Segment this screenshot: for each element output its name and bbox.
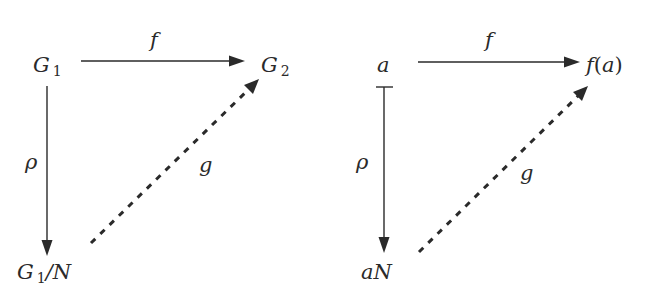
node-g1n-subscript: 1 (37, 270, 46, 286)
node-a: a (377, 55, 390, 76)
node-g1n-base: G (17, 260, 34, 284)
node-g1-base: G (33, 53, 50, 77)
label-f-left: f (150, 30, 158, 51)
arrowhead-g-left-icon (244, 79, 259, 94)
arrowhead-f-left-icon (229, 56, 245, 67)
node-f-of-a: f(a) (586, 55, 623, 76)
node-g1-subscript: 1 (53, 63, 62, 79)
arrowhead-rho-right-icon (379, 237, 390, 253)
arrow-g-left-dashed (91, 89, 249, 243)
arrow-g-right-dashed (419, 96, 578, 252)
commutative-diagrams-canvas (0, 0, 657, 295)
node-f-of-a-paren-close: ) (615, 53, 623, 77)
node-g2: G2 (261, 55, 290, 78)
node-an: aN (361, 262, 392, 283)
node-f-of-a-paren-open: ( (594, 53, 602, 77)
node-f-of-a-arg: a (602, 53, 615, 77)
arrowhead-f-right-icon (564, 57, 580, 68)
node-g2-base: G (261, 53, 278, 77)
label-rho-right: ρ (356, 152, 368, 173)
label-f-right: f (485, 30, 493, 51)
node-f-of-a-func: f (586, 53, 594, 77)
node-g1-quotient: G1/N (17, 262, 71, 285)
node-g1n-suffix: /N (46, 260, 71, 284)
right-diagram-arrows (376, 57, 588, 254)
label-g-right: g (520, 163, 533, 184)
left-diagram-arrows (42, 56, 260, 257)
node-g2-subscript: 2 (281, 63, 290, 79)
arrowhead-rho-left-icon (42, 240, 53, 256)
label-g-left: g (199, 155, 212, 176)
label-rho-left: ρ (25, 152, 37, 173)
node-g1-top: G1 (33, 55, 62, 78)
arrowhead-g-right-icon (573, 86, 588, 101)
